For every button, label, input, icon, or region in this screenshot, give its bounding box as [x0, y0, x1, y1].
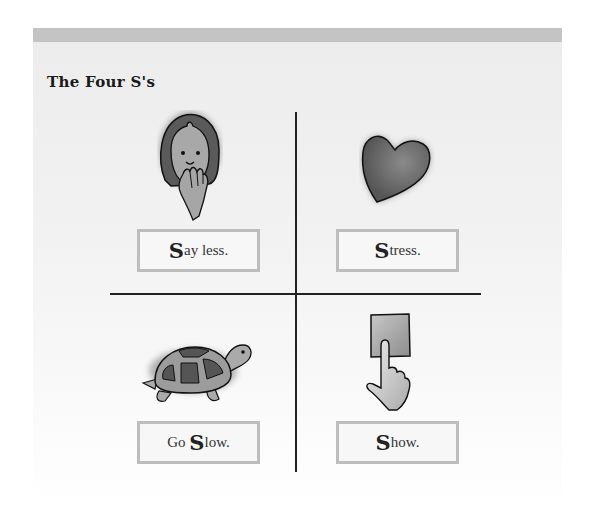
label-initial: S: [374, 238, 389, 263]
label-rest: low.: [204, 434, 229, 451]
horizontal-divider: [110, 293, 481, 295]
page-title: The Four S's: [47, 73, 155, 91]
face-hand-over-mouth-icon: [157, 110, 223, 222]
header-bar: [33, 28, 562, 42]
label-initial: S: [189, 430, 204, 455]
label-stress: Stress.: [336, 229, 459, 272]
label-rest: tress.: [389, 242, 420, 259]
vertical-divider: [295, 112, 297, 472]
heart-icon: [359, 130, 435, 210]
four-s-panel: The Four S's: [33, 28, 562, 507]
label-show: Show.: [336, 421, 459, 464]
label-go-slow: Go Slow.: [137, 421, 260, 464]
label-initial: S: [376, 430, 391, 455]
label-prefix: Go: [167, 434, 189, 451]
hand-pointing-at-card-icon: [363, 312, 415, 412]
label-initial: S: [169, 238, 184, 263]
label-say-less: Say less.: [137, 229, 260, 272]
label-rest: ay less.: [184, 242, 228, 259]
turtle-icon: [141, 341, 255, 407]
label-rest: how.: [391, 434, 420, 451]
